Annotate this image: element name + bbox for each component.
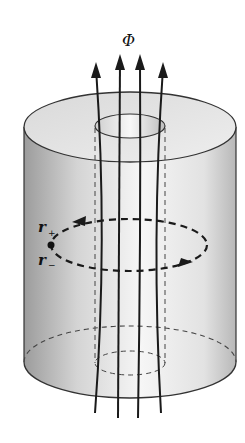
inner-hole-top bbox=[95, 114, 165, 138]
arrow-up-icon bbox=[158, 62, 168, 78]
svg-text:r: r bbox=[38, 251, 47, 269]
arrow-up-icon bbox=[115, 54, 125, 70]
cylinder-top-face bbox=[24, 92, 236, 162]
svg-text:+: + bbox=[48, 228, 56, 238]
arrow-up-icon bbox=[91, 62, 101, 78]
svg-text:−: − bbox=[48, 260, 56, 270]
arrow-up-icon bbox=[135, 54, 145, 70]
flux-arrowheads bbox=[91, 54, 168, 78]
aharonov-bohm-diagram: Φ r + r − bbox=[0, 0, 245, 443]
loop-point bbox=[48, 242, 55, 249]
flux-label: Φ bbox=[122, 31, 135, 50]
svg-text:r: r bbox=[38, 218, 47, 236]
cylinder-body bbox=[24, 127, 236, 398]
